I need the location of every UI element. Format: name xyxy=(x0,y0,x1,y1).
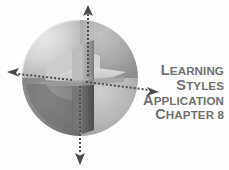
title-line-2-initial: S xyxy=(176,77,186,93)
figure-title-line-4: CHAPTER 8 xyxy=(128,107,224,122)
title-line-3-initial: A xyxy=(143,92,154,108)
vertical-cut-plane-upper-face xyxy=(72,44,82,82)
axis-left-arrow-icon xyxy=(7,68,20,77)
title-line-1-rest: EARNING xyxy=(170,64,224,77)
learning-styles-figure: LEARNING STYLES APPLICATION CHAPTER 8 xyxy=(0,0,229,170)
figure-title-line-1: LEARNING xyxy=(128,63,224,78)
title-line-4-rest: HAPTER 8 xyxy=(166,108,224,121)
figure-title-block: LEARNING STYLES APPLICATION CHAPTER 8 xyxy=(128,63,224,122)
title-line-4-initial: C xyxy=(155,106,166,122)
figure-title-line-2: STYLES xyxy=(128,78,224,93)
vertical-cut-plane-lower xyxy=(82,78,94,134)
title-line-2-rest: TYLES xyxy=(186,79,224,92)
axis-down-arrow-icon xyxy=(75,153,85,165)
figure-title-line-3: APPLICATION xyxy=(128,93,224,108)
title-line-3-rest: PPLICATION xyxy=(154,94,224,107)
title-line-1-initial: L xyxy=(161,62,170,78)
